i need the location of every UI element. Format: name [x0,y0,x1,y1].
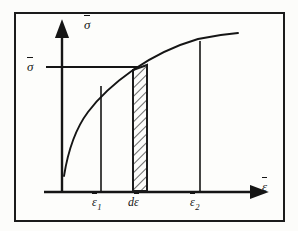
y-axis-title: σ [84,18,90,31]
strain-increment-symbol: ε [134,195,139,209]
overbar [262,177,267,178]
y-axis-title-symbol: σ [84,17,90,32]
strain-2-label: ε2 [190,196,200,211]
overbar [27,57,33,58]
x-axis-title-symbol: ε [262,179,267,194]
strain-2-subscript: 2 [195,202,199,212]
strain-1-label: ε1 [92,196,102,211]
overbar [134,193,139,194]
strain-increment-label: dε [128,196,139,208]
figure-screenshot: σ σ ε ε1 dε ε2 [0,0,298,231]
overbar [84,15,90,16]
strain-1-subscript: 1 [97,202,101,212]
strain-1-symbol: ε [92,195,97,209]
stress-level-symbol: σ [27,59,33,74]
overbar [190,193,195,194]
strain-2-symbol: ε [190,195,195,209]
differential-strip-fill [133,65,147,191]
x-axis-title: ε [262,180,267,193]
overbar [92,193,97,194]
stress-level-label: σ [27,60,33,73]
stress-strain-curve [64,33,238,176]
plot-canvas [0,0,298,231]
